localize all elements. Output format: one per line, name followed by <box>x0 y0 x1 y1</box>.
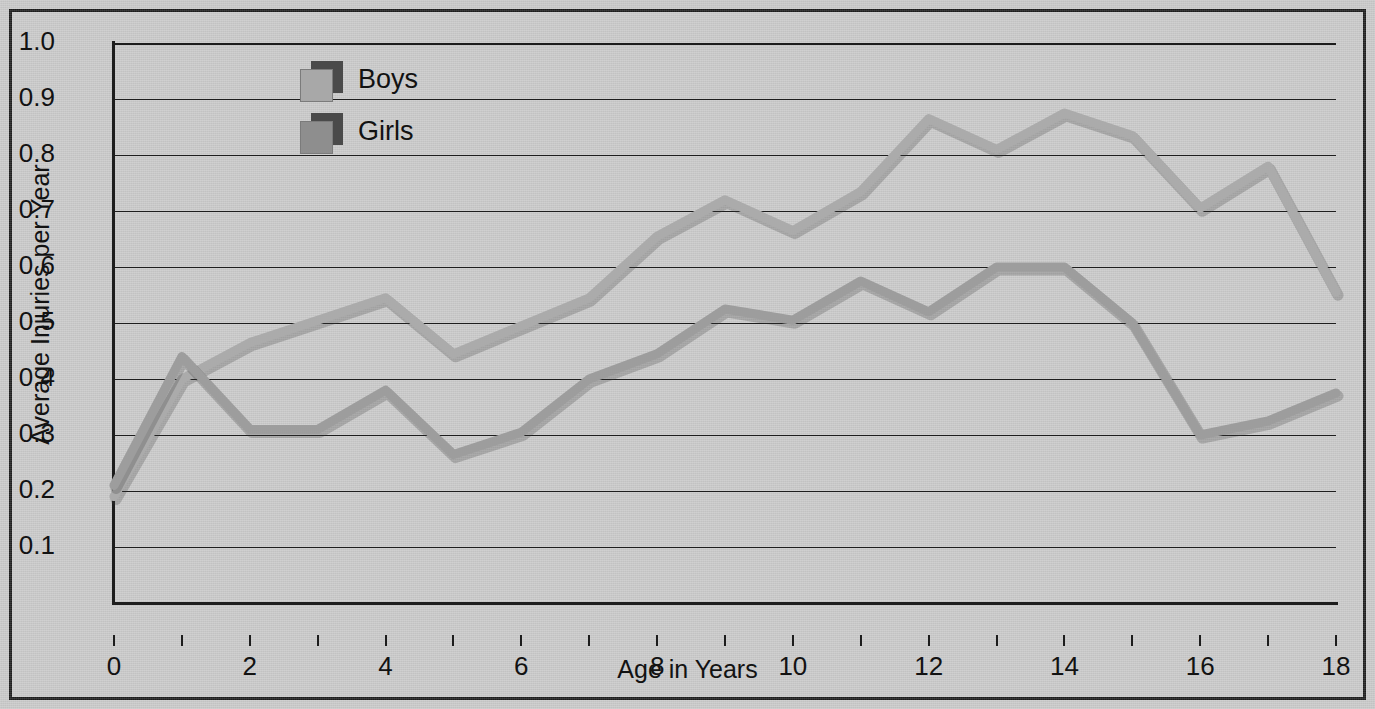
x-axis-tick <box>520 635 522 646</box>
x-axis-tick <box>860 635 862 646</box>
x-axis-tick <box>452 635 454 646</box>
x-axis-title: Age in Years <box>0 655 1375 684</box>
x-axis-tick <box>996 635 998 646</box>
x-axis-tick <box>792 635 794 646</box>
chart-figure: 0.10.20.30.40.50.60.70.80.91.0 024681012… <box>0 0 1375 709</box>
x-axis-tick <box>113 635 115 646</box>
gridline <box>114 547 1336 548</box>
x-axis-tick <box>317 635 319 646</box>
chart-legend: Boys Girls <box>300 57 480 161</box>
x-axis-tick <box>181 635 183 646</box>
gridline <box>114 435 1336 436</box>
x-axis-tick <box>1335 635 1337 646</box>
gridline <box>114 211 1336 212</box>
gridline <box>114 99 1336 100</box>
gridline <box>114 43 1336 45</box>
legend-item-boys: Boys <box>300 57 480 109</box>
x-axis-tick <box>1131 635 1133 646</box>
legend-label-boys: Boys <box>358 63 418 95</box>
x-axis-tick <box>724 635 726 646</box>
x-axis-tick <box>928 635 930 646</box>
legend-swatch-fill-icon <box>300 121 333 154</box>
gridline <box>114 379 1336 380</box>
x-axis-tick <box>1063 635 1065 646</box>
x-axis-tick <box>1267 635 1269 646</box>
legend-label-girls: Girls <box>358 115 414 147</box>
gridline <box>114 155 1336 156</box>
x-axis-tick <box>1199 635 1201 646</box>
x-axis-tick <box>588 635 590 646</box>
y-axis-title: Average Injuries per Year <box>26 15 55 595</box>
gridline <box>114 323 1336 324</box>
legend-swatch-girls <box>300 113 344 155</box>
x-axis-tick <box>249 635 251 646</box>
legend-item-girls: Girls <box>300 109 480 161</box>
gridline <box>114 267 1336 268</box>
plot-area: 0.10.20.30.40.50.60.70.80.91.0 024681012… <box>114 43 1336 603</box>
x-axis-tick <box>656 635 658 646</box>
gridline <box>114 491 1336 492</box>
legend-swatch-fill-icon <box>300 69 333 102</box>
legend-swatch-boys <box>300 61 344 103</box>
x-axis-tick <box>385 635 387 646</box>
